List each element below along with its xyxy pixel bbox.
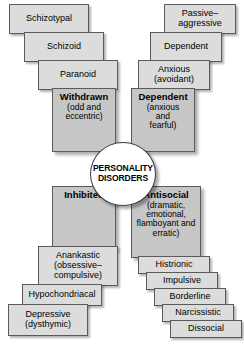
disorder-box-dependent: Dependent [150, 32, 222, 62]
disorder-box-anankastic: Anankastic (obsessive– compulsive) [38, 246, 118, 286]
cluster-antisocial-subtitle: (dramatic, emotional, flamboyant and err… [137, 201, 196, 237]
disorder-box-dissocial: Dissocial [170, 320, 242, 338]
cluster-withdrawn-title: Withdrawn [60, 92, 108, 102]
disorder-box-anxious-avoidant: Anxious (avoidant) [138, 60, 210, 90]
cluster-box-withdrawn: Withdrawn (odd and eccentric) [52, 88, 116, 152]
disorder-box-schizoid: Schizoid [24, 32, 104, 62]
center-node-personality-disorders: PERSONALITY DISORDERS [90, 142, 156, 206]
personality-disorders-diagram: Schizotypal Schizoid Paranoid Passive– a… [0, 0, 244, 345]
disorder-box-passive-aggressive: Passive– aggressive [164, 4, 236, 34]
disorder-box-hypochondriacal: Hypochondriacal [22, 284, 102, 306]
cluster-box-dependent: Dependent (anxious and fearful) [131, 88, 195, 152]
disorder-box-depressive: Depressive (dysthymic) [8, 304, 88, 336]
cluster-dependent-title: Dependent [138, 92, 187, 102]
cluster-withdrawn-subtitle: (odd and eccentric) [65, 103, 102, 121]
disorder-box-paranoid: Paranoid [38, 60, 118, 90]
cluster-dependent-subtitle: (anxious and fearful) [147, 103, 179, 130]
center-node-line2: DISORDERS [98, 174, 148, 184]
disorder-box-schizotypal: Schizotypal [9, 4, 89, 34]
